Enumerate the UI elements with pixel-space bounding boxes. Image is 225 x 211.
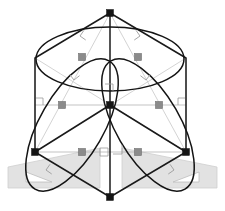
node-top-right — [135, 54, 142, 61]
right-angle-top-right-inner — [130, 30, 140, 40]
node-mid-right — [156, 102, 163, 109]
right-angle-bottom-center-right — [113, 145, 122, 154]
right-angle-mid-right — [178, 98, 185, 105]
right-angle-top-left-inner — [80, 30, 90, 40]
guide-diagonal-top-to-lower-left — [35, 13, 110, 152]
vertex-node-center — [107, 102, 114, 109]
guide-diagonal-top-to-lower-right — [110, 13, 186, 152]
right-angle-mid-left — [36, 98, 43, 105]
vertex-node-lower-right — [183, 149, 190, 156]
node-mid-left — [59, 102, 66, 109]
right-angle-top-center — [105, 84, 113, 91]
node-low-right — [135, 149, 142, 156]
vertex-node-lower-left — [32, 149, 39, 156]
vertex-node-bottom — [107, 194, 114, 201]
vertex-node-top — [107, 10, 114, 17]
node-low-left — [79, 149, 86, 156]
diagram-canvas — [0, 0, 225, 211]
isometric-cube-figure — [0, 0, 225, 211]
node-top-left — [79, 54, 86, 61]
edge-center-to-lower-right — [110, 105, 186, 152]
edge-center-to-lower-left — [35, 105, 110, 152]
